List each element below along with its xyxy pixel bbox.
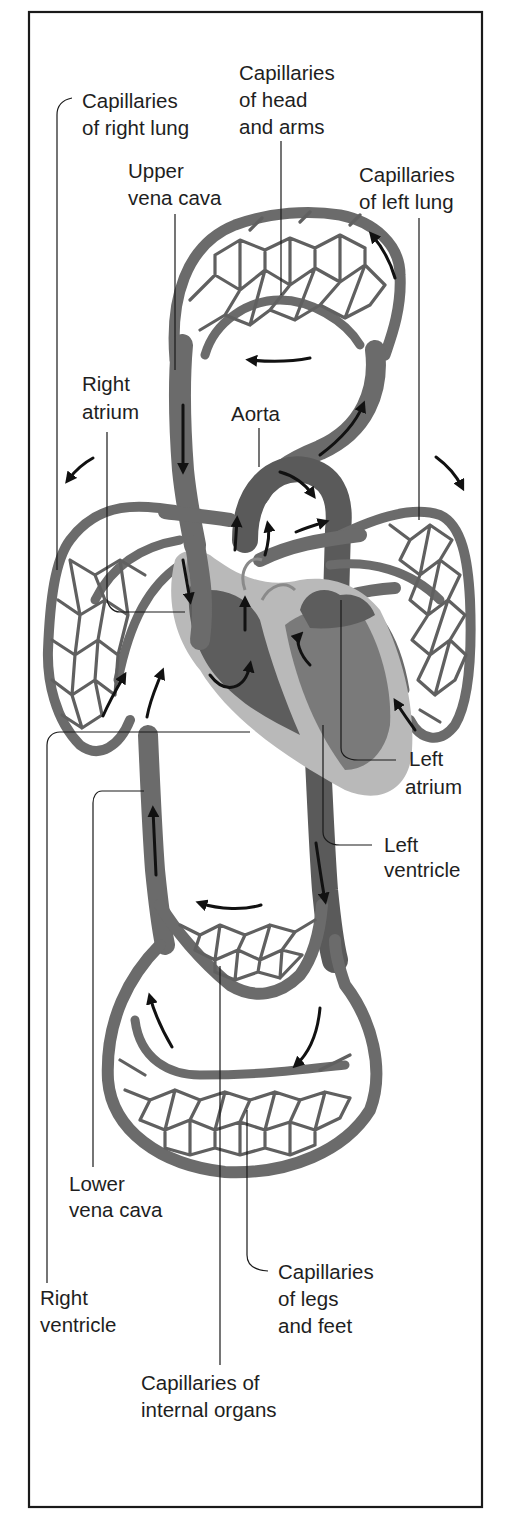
label-left-atrium: Left atrium [405, 747, 462, 798]
label-lower-vena-cava: Lower vena cava [69, 1172, 163, 1221]
label-right-atrium: Right atrium [82, 372, 139, 423]
arrow-heart-pulm-up-1 [235, 520, 237, 550]
arrow-right-lung-return [103, 676, 124, 716]
label-upper-vena-cava: Upper vena cava [128, 159, 222, 209]
legs-feet-capillary-bed [108, 940, 377, 1172]
arrow-legs-supply [296, 1008, 320, 1065]
label-right-ventricle: Right ventricle [40, 1286, 116, 1336]
leader-cap-right-lung [57, 98, 72, 570]
arrow-internal-organs-return [200, 903, 261, 909]
label-left-ventricle: Left ventricle [384, 833, 460, 881]
arrow-left-lung-out [436, 457, 462, 487]
right-lung-capillary-bed [48, 507, 180, 751]
label-cap-internal-organs: Capillaries of internal organs [141, 1371, 277, 1421]
head-arms-capillary-bed [174, 212, 400, 360]
arrow-head-arms-return [250, 358, 310, 361]
label-cap-legs-feet: Capillaries of legs and feet [278, 1260, 379, 1337]
label-cap-left-lung: Capillaries of left lung [359, 163, 460, 213]
arrow-legs-return [150, 997, 172, 1047]
arrow-rv-up-1 [147, 672, 162, 717]
circulatory-system-diagram: Capillaries of right lung Capillaries of… [0, 0, 505, 1534]
label-aorta: Aorta [231, 402, 281, 425]
arrow-right-lung-out [68, 458, 93, 480]
label-cap-right-lung: Capillaries of right lung [82, 89, 189, 139]
pulmonary-artery-right [165, 512, 230, 520]
arrow-pulmonary-left [296, 522, 325, 532]
internal-organs-capillary-bed [160, 905, 322, 994]
right-atrium-inflow [195, 545, 202, 640]
label-cap-head-arms: Capillaries of head and arms [239, 61, 340, 138]
